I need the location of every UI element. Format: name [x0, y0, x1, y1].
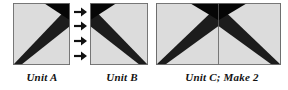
unit-a-drawing — [13, 3, 70, 65]
unit-c-drawing — [156, 3, 281, 65]
unit-b-caption: Unit B — [84, 71, 160, 84]
right-arrow-icon — [73, 35, 88, 47]
right-arrow-icon — [73, 50, 88, 62]
unit-b-block — [90, 3, 148, 65]
right-arrow-icon — [73, 20, 88, 32]
unit-a-caption: Unit A — [0, 71, 84, 84]
unit-c-caption: Unit C; Make 2 — [160, 71, 284, 84]
unit-b-drawing — [90, 3, 148, 65]
arrow-group — [73, 6, 88, 62]
figure-canvas: Unit A Unit B Unit C; Make 2 — [0, 0, 288, 90]
unit-a-block — [13, 3, 70, 65]
right-arrow-icon — [73, 6, 88, 18]
unit-c-block — [156, 3, 281, 65]
